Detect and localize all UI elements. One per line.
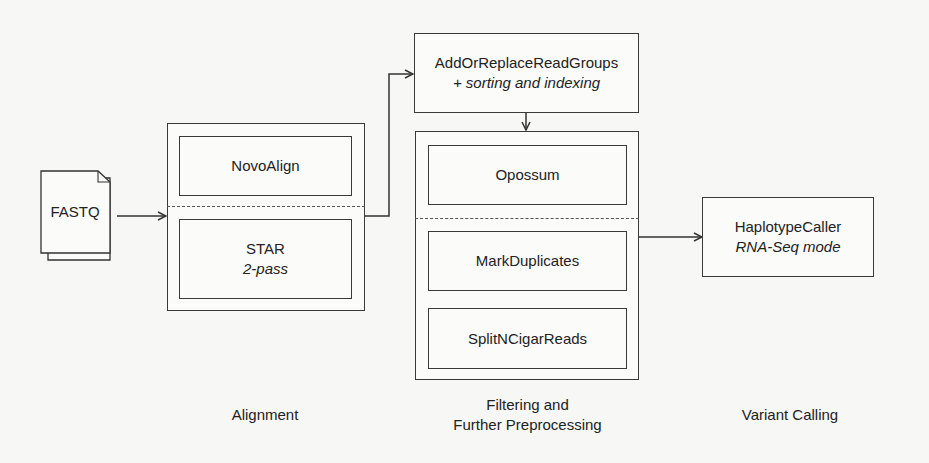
filtering-divider	[415, 218, 639, 219]
haplotypecaller-title: HaplotypeCaller	[735, 217, 842, 237]
addorreplacereadgroups-box[interactable]: AddOrReplaceReadGroups + sorting and ind…	[414, 33, 639, 113]
novoalign-box[interactable]: NovoAlign	[179, 136, 352, 196]
alignment-caption: Alignment	[190, 405, 340, 425]
markduplicates-box[interactable]: MarkDuplicates	[428, 231, 627, 291]
star-subtitle: 2-pass	[243, 259, 288, 279]
fastq-label: FASTQ	[40, 170, 110, 253]
filtering-caption: Filtering and Further Preprocessing	[420, 395, 635, 435]
splitncigarreads-title: SplitNCigarReads	[468, 329, 587, 349]
addorreplace-subtitle: + sorting and indexing	[453, 73, 600, 93]
star-box[interactable]: STAR 2-pass	[179, 219, 352, 299]
fastq-file-icon: FASTQ	[40, 170, 118, 263]
addorreplace-title: AddOrReplaceReadGroups	[435, 53, 618, 73]
splitncigarreads-box[interactable]: SplitNCigarReads	[428, 308, 627, 369]
haplotypecaller-subtitle: RNA-Seq mode	[735, 237, 840, 257]
haplotypecaller-box[interactable]: HaplotypeCaller RNA-Seq mode	[702, 197, 874, 277]
variant-calling-caption: Variant Calling	[710, 405, 870, 425]
opossum-box[interactable]: Opossum	[428, 145, 627, 205]
markduplicates-title: MarkDuplicates	[476, 251, 579, 271]
novoalign-title: NovoAlign	[231, 156, 299, 176]
star-title: STAR	[246, 239, 285, 259]
alignment-divider	[167, 206, 365, 207]
opossum-title: Opossum	[495, 165, 559, 185]
